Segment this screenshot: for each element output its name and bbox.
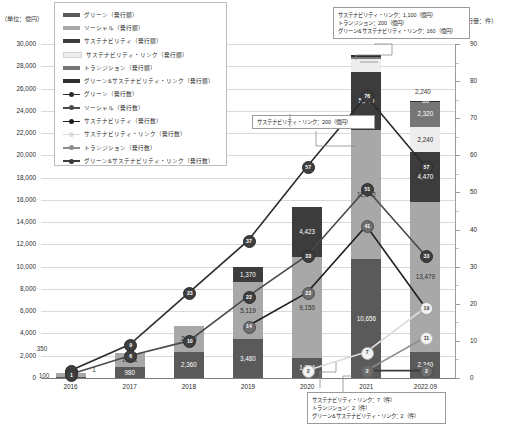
- callout-leader: [316, 131, 356, 146]
- callout-leader: [343, 376, 352, 392]
- secondary-y-axis-line: [455, 44, 456, 378]
- callout-leader-lines: [0, 0, 509, 435]
- callout-leader: [356, 44, 392, 60]
- chart-container: （単位：億円） （発行量：件） 30,00028,00026,00024,000…: [0, 0, 509, 435]
- callout-leader: [320, 362, 336, 388]
